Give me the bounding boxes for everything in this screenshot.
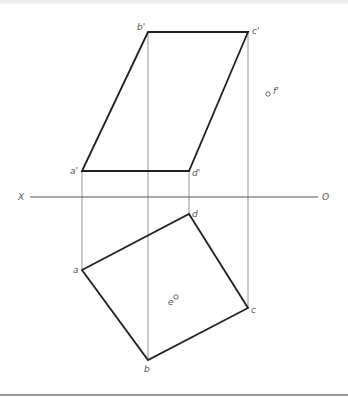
label-b-prime: b' — [137, 22, 145, 32]
label-a-prime: a' — [70, 166, 78, 176]
axis-label-o: O — [322, 192, 329, 202]
point-e-marker — [174, 295, 178, 299]
label-c-prime: c' — [252, 26, 259, 36]
front-view-parallelogram — [82, 32, 248, 171]
projection-lines — [82, 32, 248, 360]
label-d: d — [192, 209, 198, 219]
label-e: e — [168, 297, 174, 307]
label-d-prime: d' — [192, 168, 200, 178]
label-f-prime: f' — [273, 86, 279, 96]
axis-label-x: X — [17, 192, 25, 202]
label-b: b — [144, 364, 150, 374]
top-view-quadrilateral — [82, 214, 248, 360]
bottom-rule — [0, 394, 348, 396]
projection-drawing: X O a' b' c' d' f' a b c d e — [0, 0, 348, 397]
label-c: c — [251, 305, 256, 315]
point-f-prime-marker — [266, 92, 270, 96]
label-a: a — [73, 265, 79, 275]
